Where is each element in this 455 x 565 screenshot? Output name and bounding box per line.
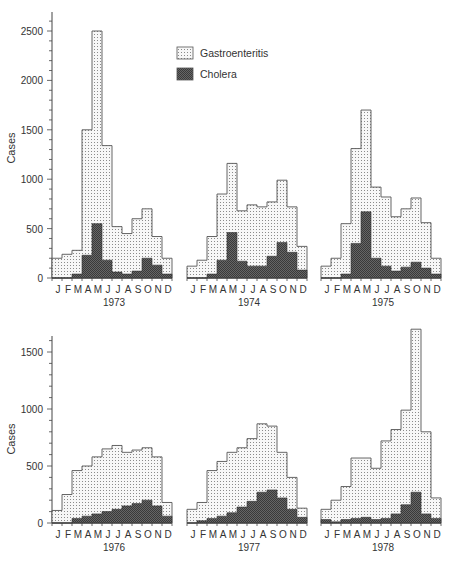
- month-label: M: [343, 284, 351, 295]
- month-label: M: [363, 284, 371, 295]
- legend-cholera: Cholera: [200, 68, 237, 80]
- month-label: A: [394, 529, 401, 540]
- month-label: M: [94, 284, 102, 295]
- month-label: J: [191, 284, 196, 295]
- month-label: F: [65, 529, 71, 540]
- month-label: O: [413, 284, 421, 295]
- month-label: O: [413, 529, 421, 540]
- month-label: J: [191, 529, 196, 540]
- y-tick-label: 1000: [21, 174, 44, 185]
- month-label: O: [279, 284, 287, 295]
- month-label: S: [404, 284, 411, 295]
- month-label: A: [220, 284, 227, 295]
- month-label: D: [164, 529, 171, 540]
- month-label: N: [154, 284, 161, 295]
- month-label: S: [270, 284, 277, 295]
- month-label: J: [241, 529, 246, 540]
- month-label: M: [94, 529, 102, 540]
- year-label: 1977: [238, 542, 261, 553]
- month-label: J: [251, 529, 256, 540]
- month-label: J: [375, 529, 380, 540]
- month-label: M: [229, 529, 237, 540]
- month-label: D: [433, 284, 440, 295]
- month-label: M: [74, 529, 82, 540]
- month-label: J: [56, 529, 61, 540]
- year-label: 1974: [238, 297, 261, 308]
- gastroenteritis-bars: [52, 31, 172, 278]
- month-label: F: [65, 284, 71, 295]
- month-label: J: [56, 284, 61, 295]
- month-label: A: [394, 284, 401, 295]
- y-axis-label-top: Cases: [5, 132, 17, 164]
- month-label: J: [106, 529, 111, 540]
- month-label: S: [270, 529, 277, 540]
- month-label: J: [116, 284, 121, 295]
- month-label: A: [260, 284, 267, 295]
- month-label: O: [144, 529, 152, 540]
- y-axis-label-bottom: Cases: [5, 423, 17, 455]
- month-label: F: [334, 529, 340, 540]
- month-label: N: [289, 284, 296, 295]
- month-label: M: [343, 529, 351, 540]
- month-label: A: [85, 284, 92, 295]
- month-label: N: [154, 529, 161, 540]
- month-label: N: [423, 529, 430, 540]
- month-label: A: [260, 529, 267, 540]
- y-tick-label: 1000: [21, 404, 44, 415]
- month-label: J: [106, 284, 111, 295]
- month-label: A: [125, 284, 132, 295]
- month-label: M: [363, 529, 371, 540]
- month-label: O: [279, 529, 287, 540]
- y-tick-label: 2000: [21, 75, 44, 86]
- month-label: A: [354, 284, 361, 295]
- panel-1978: JFMAMJJASOND1978: [321, 329, 441, 553]
- y-tick-label: 2500: [21, 26, 44, 37]
- legend: Gastroenteritis Cholera: [177, 47, 268, 80]
- month-label: A: [220, 529, 227, 540]
- month-label: J: [325, 529, 330, 540]
- month-label: J: [375, 284, 380, 295]
- y-axis-row-0: 05001000150020002500: [21, 12, 52, 284]
- month-label: J: [385, 284, 390, 295]
- gastroenteritis-bars: [321, 110, 441, 278]
- y-tick-label: 500: [26, 461, 43, 472]
- panel-1976: JFMAMJJASOND1976: [52, 445, 172, 553]
- month-label: S: [135, 284, 142, 295]
- month-label: D: [433, 529, 440, 540]
- y-tick-label: 1500: [21, 347, 44, 358]
- panel-1974: JFMAMJJASOND1974: [187, 163, 307, 308]
- month-label: O: [144, 284, 152, 295]
- y-tick-label: 0: [37, 273, 43, 284]
- month-label: D: [299, 284, 306, 295]
- month-label: D: [164, 284, 171, 295]
- month-label: D: [299, 529, 306, 540]
- month-label: S: [404, 529, 411, 540]
- y-axis-row-1: 050010001500: [21, 336, 52, 529]
- panel-1973: JFMAMJJASOND1973: [52, 31, 172, 308]
- month-label: F: [200, 284, 206, 295]
- month-label: J: [241, 284, 246, 295]
- month-label: M: [209, 529, 217, 540]
- month-label: M: [229, 284, 237, 295]
- month-label: J: [385, 529, 390, 540]
- month-label: J: [325, 284, 330, 295]
- month-label: A: [354, 529, 361, 540]
- gastroenteritis-swatch-icon: [177, 47, 193, 59]
- year-label: 1975: [372, 297, 395, 308]
- month-label: S: [135, 529, 142, 540]
- y-tick-label: 500: [26, 224, 43, 235]
- cholera-swatch-icon: [177, 68, 193, 80]
- year-label: 1976: [103, 542, 126, 553]
- month-label: F: [200, 529, 206, 540]
- month-label: F: [334, 284, 340, 295]
- year-label: 1973: [103, 297, 126, 308]
- panel-1977: JFMAMJJASOND1977: [187, 424, 307, 553]
- y-tick-label: 1500: [21, 125, 44, 136]
- month-label: N: [423, 284, 430, 295]
- legend-gastroenteritis: Gastroenteritis: [200, 47, 268, 59]
- month-label: M: [74, 284, 82, 295]
- y-tick-label: 0: [37, 518, 43, 529]
- month-label: A: [85, 529, 92, 540]
- month-label: M: [209, 284, 217, 295]
- month-label: J: [251, 284, 256, 295]
